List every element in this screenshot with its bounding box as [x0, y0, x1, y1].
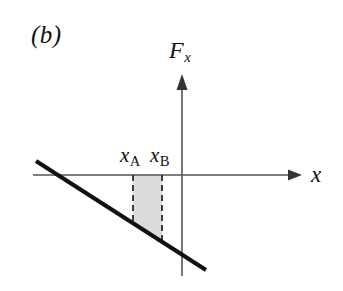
x-axis-label: x: [311, 163, 321, 186]
tick-label-xb-base: x: [150, 143, 159, 167]
force-line: [36, 161, 206, 270]
tick-label-xb: xB: [150, 145, 170, 169]
arrow-right-icon: [288, 170, 302, 181]
tick-label-xa-base: x: [120, 143, 129, 167]
tick-label-xb-subscript: B: [160, 153, 170, 169]
y-axis-label-base: F: [169, 37, 184, 63]
y-axis-label: Fx: [169, 38, 191, 65]
force-vs-position-figure: (b) Fx x xA xB: [0, 0, 343, 291]
tick-label-xa-subscript: A: [130, 153, 141, 169]
arrow-up-icon: [177, 74, 188, 90]
y-axis-label-subscript: x: [184, 49, 191, 65]
tick-label-xa: xA: [120, 145, 140, 169]
panel-letter: (b): [31, 22, 62, 47]
